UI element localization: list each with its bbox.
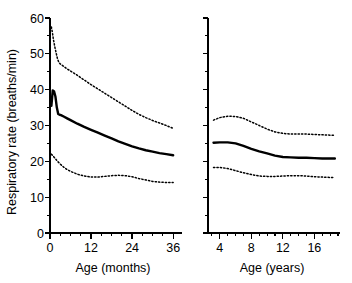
x-tick-label: 8 xyxy=(248,241,255,255)
x-tick-label: 16 xyxy=(307,241,321,255)
y-axis-tick-labels: 0102030405060 xyxy=(30,12,44,241)
left-panel-axes xyxy=(45,18,183,239)
y-tick-label: 60 xyxy=(30,12,44,26)
right-x-axis-tick-labels: 481216 xyxy=(216,241,321,255)
axis-spine xyxy=(208,18,340,233)
x-tick-label: 4 xyxy=(216,241,223,255)
series-upper-centile xyxy=(51,27,173,128)
axis-spine xyxy=(50,18,182,233)
y-tick-label: 40 xyxy=(30,83,44,97)
y-tick-label: 20 xyxy=(30,155,44,169)
y-tick-label: 30 xyxy=(30,119,44,133)
x-tick-label: 12 xyxy=(276,241,290,255)
panel-age-years: 481216 Age (years) xyxy=(203,18,341,275)
right-x-axis-title: Age (years) xyxy=(240,261,305,275)
panel-age-months: 0122436 Age (months) xyxy=(45,18,183,275)
y-axis-title: Respiratory rate (breaths/min) xyxy=(5,49,19,215)
series-lower-centile xyxy=(51,154,173,182)
left-x-axis-tick-labels: 0122436 xyxy=(47,241,181,255)
series-median xyxy=(214,142,335,158)
left-panel-series xyxy=(51,27,173,183)
y-tick-label: 10 xyxy=(30,191,44,205)
right-panel-axes xyxy=(203,18,341,239)
x-tick-label: 24 xyxy=(125,241,139,255)
x-tick-label: 12 xyxy=(84,241,98,255)
right-panel-series xyxy=(214,116,335,177)
x-tick-label: 36 xyxy=(166,241,180,255)
respiratory-rate-figure: Respiratory rate (breaths/min) 010203040… xyxy=(0,0,352,283)
y-tick-label: 0 xyxy=(37,227,44,241)
x-tick-label: 0 xyxy=(47,241,54,255)
series-median xyxy=(51,90,173,155)
series-lower-centile xyxy=(214,167,335,177)
left-x-axis-title: Age (months) xyxy=(75,261,150,275)
chart-canvas: Respiratory rate (breaths/min) 010203040… xyxy=(0,0,352,283)
series-upper-centile xyxy=(214,116,335,135)
y-tick-label: 50 xyxy=(30,47,44,61)
